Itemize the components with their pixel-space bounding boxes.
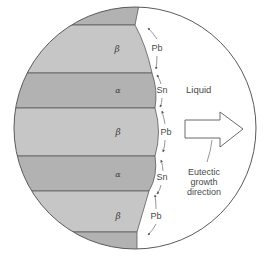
phase-label-beta-2: β: [114, 127, 120, 137]
growth-caption-line-1: Eutectic: [188, 167, 221, 177]
diffusion-label-sn-2: Sn: [156, 172, 167, 182]
diffusion-label-pb-1: Pb: [151, 43, 162, 53]
diffusion-label-pb-2: Pb: [160, 127, 171, 137]
lamella-beta-3: [0, 191, 149, 232]
solid-lamellae: [0, 0, 159, 257]
lamella-beta-2: [0, 108, 159, 156]
lamella-alpha-1: [0, 73, 156, 108]
eutectic-growth-diagram: β α β α β Pb Sn Pb Sn Pb Liquid Eutectic…: [0, 0, 271, 257]
lamella-alpha-bottom-sliver: [0, 232, 137, 257]
diffusion-label-sn-1: Sn: [156, 85, 167, 95]
growth-caption-line-2: growth: [190, 177, 217, 187]
lamella-beta-1: [0, 25, 152, 73]
phase-label-beta-3: β: [114, 211, 120, 221]
liquid-label: Liquid: [186, 84, 211, 95]
growth-caption-line-3: direction: [187, 187, 221, 197]
phase-label-alpha-2: α: [115, 170, 121, 179]
lamella-alpha-top-sliver: [0, 0, 140, 25]
diffusion-label-pb-3: Pb: [150, 211, 161, 221]
phase-label-alpha-1: α: [115, 86, 121, 95]
phase-label-beta-1: β: [113, 44, 119, 54]
